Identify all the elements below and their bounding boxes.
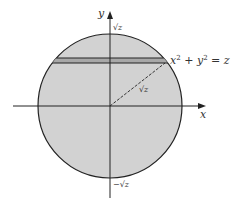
bottom-intercept-label: −√z	[113, 180, 130, 189]
equation-label: x2 + y2 = z	[170, 54, 230, 67]
radius-label: √z	[139, 85, 149, 94]
top-intercept-label: √z	[113, 23, 123, 32]
y-axis-label: y	[97, 7, 105, 20]
disk-diagram: y x √z −√z √z x2 + y2 = z	[0, 0, 232, 205]
y-axis-arrow-icon	[107, 11, 113, 19]
svg-text:x2 + y2 = z: x2 + y2 = z	[170, 54, 230, 67]
x-axis-label: x	[200, 108, 207, 121]
